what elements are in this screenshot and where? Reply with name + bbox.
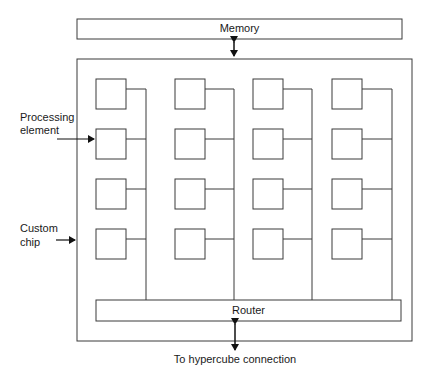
custom-chip-label-line1: Custom [20,222,58,235]
processing-element [253,129,283,159]
custom-chip-label-line2: chip [20,236,40,249]
processing-element [175,179,205,209]
processing-element [253,179,283,209]
processing-element [332,179,362,209]
processing-element-label-line1: Processing [20,111,74,124]
processing-element [253,79,283,109]
hypercube-connection-label: To hypercube connection [135,353,335,366]
processing-element [96,179,126,209]
pe-column-1 [96,79,146,300]
parallel-architecture-diagram [0,0,427,378]
processing-element [175,79,205,109]
pe-column-2 [175,79,234,300]
processing-element [175,229,205,259]
pe-column-4 [332,79,392,300]
processing-element [332,129,362,159]
processing-element [332,229,362,259]
processing-element [175,129,205,159]
pe-column-3 [253,79,312,300]
processing-element [96,229,126,259]
memory-label: Memory [77,22,402,35]
processing-element [253,229,283,259]
processing-element [96,129,126,159]
router-label: Router [96,304,401,317]
processing-element [332,79,362,109]
processing-element [96,79,126,109]
processing-element-label-line2: element [20,124,59,137]
